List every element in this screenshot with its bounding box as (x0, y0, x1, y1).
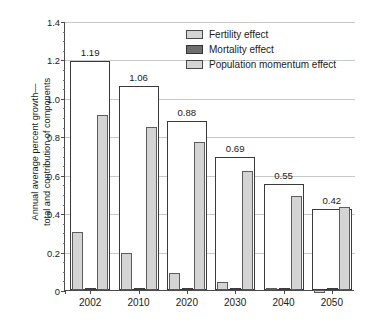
bar-fertility-2030 (217, 282, 228, 290)
x-axis-label-2050: 2050 (321, 297, 343, 308)
x-axis-tick (90, 290, 91, 294)
x-axis-tick (65, 290, 66, 294)
bar-momentum-2030 (242, 171, 253, 290)
y-axis-minor-tick (63, 147, 66, 148)
y-axis-minor-tick (63, 32, 66, 33)
y-axis-tick (61, 137, 65, 138)
bar-momentum-2002 (97, 115, 108, 290)
y-axis-minor-tick (63, 205, 66, 206)
legend-item-mortality: Mortality effect (186, 42, 362, 57)
y-axis-tick (61, 214, 65, 215)
y-axis-minor-tick (63, 51, 66, 52)
legend-label-momentum: Population momentum effect (209, 59, 336, 70)
y-axis-tick (61, 22, 65, 23)
y-axis-tick (61, 253, 65, 254)
total-value-label-2002: 1.19 (81, 47, 100, 58)
y-axis-minor-tick (63, 80, 66, 81)
y-axis-minor-tick (63, 195, 66, 196)
bar-fertility-2010 (121, 253, 132, 290)
x-axis-tick (235, 290, 236, 294)
bar-momentum-2020 (194, 142, 205, 290)
bar-group-2010: 1.062010 (119, 21, 159, 290)
chart-legend: Fertility effect Mortality effect Popula… (186, 27, 362, 72)
bar-momentum-2040 (291, 196, 302, 290)
total-value-label-2020: 0.88 (177, 107, 196, 118)
y-axis-minor-tick (63, 118, 66, 119)
legend-label-mortality: Mortality effect (209, 44, 274, 55)
x-axis-tick (284, 290, 285, 294)
y-axis-tick-label: 1.0 (47, 93, 60, 104)
y-axis-tick (61, 60, 65, 61)
x-axis-tick (332, 290, 333, 294)
legend-item-momentum: Population momentum effect (186, 57, 362, 72)
chart-title (0, 0, 366, 5)
y-axis-minor-tick (63, 157, 66, 158)
total-value-label-2040: 0.55 (274, 170, 293, 181)
y-axis-tick-label: 0.4 (47, 209, 60, 220)
bar-fertility-2020 (169, 273, 180, 290)
x-axis-label-2030: 2030 (224, 297, 246, 308)
y-axis-minor-tick (63, 224, 66, 225)
y-axis-minor-tick (63, 272, 66, 273)
y-axis-minor-tick (63, 89, 66, 90)
y-axis-minor-tick (63, 243, 66, 244)
y-axis-minor-tick (63, 281, 66, 282)
y-axis-minor-tick (63, 128, 66, 129)
momentum-swatch-icon (186, 60, 203, 69)
population-growth-components-chart: Annual average percent growth— total and… (0, 0, 366, 332)
fertility-swatch-icon (186, 30, 203, 39)
mortality-swatch-icon (186, 45, 203, 54)
y-axis-minor-tick (63, 70, 66, 71)
y-axis-tick-label: 0.2 (47, 247, 60, 258)
y-axis-minor-tick (63, 108, 66, 109)
y-axis-minor-tick (63, 185, 66, 186)
y-axis-minor-tick (63, 166, 66, 167)
y-axis-title: Annual average percent growth— total and… (0, 0, 36, 300)
y-axis-tick-label: 1.4 (47, 17, 60, 28)
bar-momentum-2050 (339, 207, 350, 290)
total-value-label-2050: 0.42 (322, 195, 341, 206)
bar-fertility-2040 (266, 288, 277, 290)
bar-fertility-2050 (314, 290, 325, 293)
y-axis-minor-tick (63, 233, 66, 234)
x-axis-label-2010: 2010 (127, 297, 149, 308)
y-axis-tick-label: 1.2 (47, 55, 60, 66)
bar-fertility-2002 (72, 232, 83, 290)
y-axis-minor-tick (63, 262, 66, 263)
y-axis-tick-label: 0.8 (47, 132, 60, 143)
y-axis-minor-tick (63, 41, 66, 42)
y-axis-tick-label: 0 (55, 286, 60, 297)
x-axis-label-2002: 2002 (79, 297, 101, 308)
y-axis-tick (61, 176, 65, 177)
y-axis-tick (61, 99, 65, 100)
total-value-label-2010: 1.06 (129, 72, 148, 83)
x-axis-tick (139, 290, 140, 294)
x-axis-label-2040: 2040 (272, 297, 294, 308)
bar-momentum-2010 (146, 127, 157, 290)
bar-group-2002: 1.192002 (70, 21, 110, 290)
y-axis-tick-label: 0.6 (47, 170, 60, 181)
x-axis-tick (187, 290, 188, 294)
total-value-label-2030: 0.69 (226, 143, 245, 154)
x-axis-label-2020: 2020 (176, 297, 198, 308)
y-axis-title-line-1: Annual average percent growth— (30, 16, 42, 288)
legend-label-fertility: Fertility effect (209, 29, 268, 40)
legend-item-fertility: Fertility effect (186, 27, 362, 42)
